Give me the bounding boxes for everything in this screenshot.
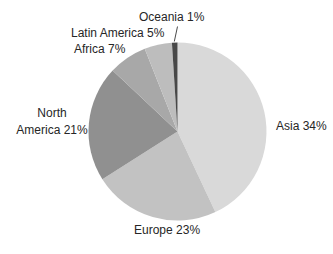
label-north-america-line1: North <box>16 105 88 122</box>
pie-slices-group <box>88 43 266 221</box>
label-africa: Africa 7% <box>74 43 125 57</box>
label-oceania: Oceania 1% <box>139 11 204 25</box>
label-latin-america: Latin America 5% <box>71 27 164 41</box>
label-north-america: North America 21% <box>16 105 88 139</box>
label-asia: Asia 34% <box>276 120 327 134</box>
label-europe: Europe 23% <box>134 224 200 238</box>
pie-chart-figure: Oceania 1% Latin America 5% Africa 7% No… <box>0 0 333 254</box>
oceania-leader-line <box>174 27 177 42</box>
label-north-america-line2: America 21% <box>16 122 88 139</box>
